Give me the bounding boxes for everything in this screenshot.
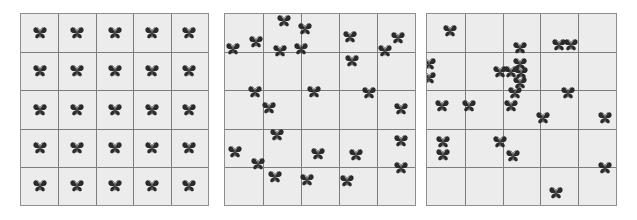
butterfly-icon bbox=[492, 134, 507, 149]
butterfly-icon bbox=[307, 85, 322, 100]
butterfly-icon bbox=[182, 178, 197, 193]
butterfly-icon bbox=[426, 57, 436, 72]
gridline-vertical bbox=[301, 14, 302, 205]
gridline-horizontal bbox=[225, 129, 415, 130]
butterfly-icon bbox=[107, 26, 122, 41]
butterfly-icon bbox=[32, 26, 47, 41]
gridline-horizontal bbox=[225, 167, 415, 168]
butterfly-icon bbox=[362, 86, 377, 101]
butterfly-icon bbox=[506, 149, 521, 164]
gridline-vertical bbox=[377, 14, 378, 205]
gridline-vertical bbox=[171, 14, 172, 205]
butterfly-icon bbox=[226, 42, 241, 57]
butterfly-icon bbox=[107, 64, 122, 79]
butterfly-icon bbox=[144, 26, 159, 41]
butterfly-icon bbox=[492, 65, 507, 80]
butterfly-icon bbox=[443, 24, 458, 39]
butterfly-icon bbox=[536, 110, 551, 125]
gridline-horizontal bbox=[21, 90, 208, 91]
butterfly-icon bbox=[503, 65, 518, 80]
uniform-distribution-panel bbox=[20, 13, 209, 206]
butterfly-icon bbox=[144, 140, 159, 155]
butterfly-icon bbox=[227, 145, 242, 160]
butterfly-icon bbox=[507, 86, 522, 101]
butterfly-icon bbox=[343, 29, 358, 44]
random-distribution-panel bbox=[224, 13, 416, 206]
butterfly-icon bbox=[512, 75, 527, 90]
butterfly-icon bbox=[513, 66, 528, 81]
butterfly-icon bbox=[461, 99, 476, 114]
gridline-vertical bbox=[133, 14, 134, 205]
butterfly-icon bbox=[435, 99, 450, 114]
butterfly-icon bbox=[503, 99, 518, 114]
butterfly-icon bbox=[339, 174, 354, 189]
gridline-horizontal bbox=[427, 129, 616, 130]
butterfly-icon bbox=[182, 26, 197, 41]
gridline-vertical bbox=[58, 14, 59, 205]
butterfly-icon bbox=[247, 84, 262, 99]
gridline-vertical bbox=[503, 14, 504, 205]
butterfly-icon bbox=[390, 30, 405, 45]
clustered-distribution-panel bbox=[426, 13, 617, 206]
butterfly-icon bbox=[107, 102, 122, 117]
gridline-horizontal bbox=[427, 90, 616, 91]
butterfly-icon bbox=[273, 43, 288, 58]
gridline-vertical bbox=[263, 14, 264, 205]
butterfly-icon bbox=[393, 133, 408, 148]
butterfly-icon bbox=[32, 140, 47, 155]
gridline-horizontal bbox=[225, 90, 415, 91]
butterfly-icon bbox=[182, 64, 197, 79]
butterfly-icon bbox=[549, 185, 564, 200]
butterfly-icon bbox=[311, 146, 326, 161]
gridline-horizontal bbox=[21, 129, 208, 130]
gridline-vertical bbox=[578, 14, 579, 205]
butterfly-icon bbox=[393, 101, 408, 116]
butterfly-icon bbox=[32, 64, 47, 79]
gridline-horizontal bbox=[225, 52, 415, 53]
butterfly-icon bbox=[32, 102, 47, 117]
butterfly-icon bbox=[345, 53, 360, 68]
butterfly-icon bbox=[107, 178, 122, 193]
gridline-horizontal bbox=[21, 167, 208, 168]
butterfly-icon bbox=[249, 34, 264, 49]
butterfly-icon bbox=[144, 178, 159, 193]
gridline-horizontal bbox=[427, 52, 616, 53]
butterfly-icon bbox=[435, 148, 450, 163]
butterfly-icon bbox=[426, 71, 436, 86]
butterfly-icon bbox=[182, 140, 197, 155]
gridline-vertical bbox=[540, 14, 541, 205]
butterfly-icon bbox=[144, 102, 159, 117]
butterfly-icon bbox=[268, 170, 283, 185]
butterfly-icon bbox=[70, 178, 85, 193]
butterfly-icon bbox=[270, 128, 285, 143]
butterfly-icon bbox=[70, 140, 85, 155]
butterfly-icon bbox=[144, 64, 159, 79]
gridline-horizontal bbox=[21, 52, 208, 53]
butterfly-icon bbox=[564, 37, 579, 52]
butterfly-icon bbox=[276, 13, 291, 28]
butterfly-icon bbox=[107, 140, 122, 155]
gridline-vertical bbox=[96, 14, 97, 205]
butterfly-icon bbox=[182, 102, 197, 117]
gridline-vertical bbox=[339, 14, 340, 205]
gridline-horizontal bbox=[427, 167, 616, 168]
butterfly-icon bbox=[551, 38, 566, 53]
butterfly-icon bbox=[297, 21, 312, 36]
butterfly-icon bbox=[598, 110, 613, 125]
gridline-vertical bbox=[465, 14, 466, 205]
butterfly-icon bbox=[70, 26, 85, 41]
butterfly-icon bbox=[70, 64, 85, 79]
butterfly-icon bbox=[560, 86, 575, 101]
butterfly-icon bbox=[32, 178, 47, 193]
butterfly-icon bbox=[70, 102, 85, 117]
butterfly-icon bbox=[349, 147, 364, 162]
butterfly-icon bbox=[435, 134, 450, 149]
figure-root bbox=[0, 0, 637, 220]
butterfly-icon bbox=[512, 57, 527, 72]
